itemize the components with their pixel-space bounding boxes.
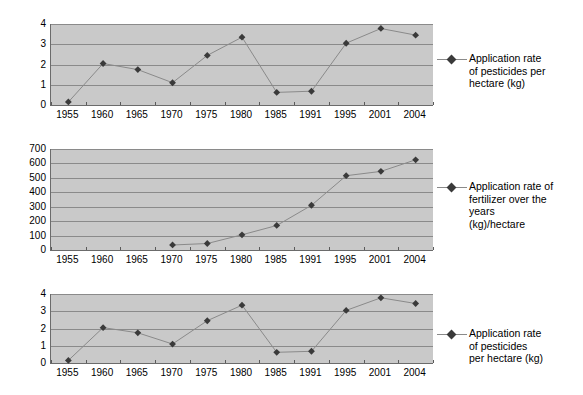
x-tick-mark [433, 360, 434, 363]
y-tick-label: 3 [40, 306, 46, 316]
x-tick-label: 1955 [50, 367, 84, 378]
data-point-marker[interactable] [378, 294, 385, 301]
data-series [51, 294, 433, 363]
data-point-marker[interactable] [412, 300, 419, 307]
data-point-marker[interactable] [134, 329, 141, 336]
plot-area-3 [50, 294, 433, 364]
data-point-marker[interactable] [204, 317, 211, 324]
y-tick-label: 1 [40, 341, 46, 351]
legend-label: Application rate of pesticides per hecta… [467, 327, 543, 365]
y-tick-label: 4 [40, 289, 46, 299]
x-tick-label: 1991 [293, 367, 327, 378]
y-tick-label: 0 [40, 358, 46, 368]
x-tick-label: 1975 [189, 367, 223, 378]
x-tick-label: 1965 [120, 367, 154, 378]
x-tick-label: 2001 [363, 367, 397, 378]
chart-3: 0123419551960196519701975198019851991199… [0, 0, 583, 395]
x-tick-label: 1970 [155, 367, 189, 378]
x-tick-label: 1960 [85, 367, 119, 378]
x-tick-label: 2004 [398, 367, 432, 378]
legend-marker-icon [437, 329, 467, 341]
x-tick-label: 1995 [328, 367, 362, 378]
y-axis-labels-3: 01234 [12, 294, 46, 363]
y-tick-label: 2 [40, 324, 46, 334]
data-point-marker[interactable] [169, 341, 176, 348]
diamond-icon [447, 330, 457, 340]
x-tick-label: 1980 [224, 367, 258, 378]
x-tick-label: 1985 [259, 367, 293, 378]
legend-3: Application rate of pesticides per hecta… [437, 327, 579, 365]
